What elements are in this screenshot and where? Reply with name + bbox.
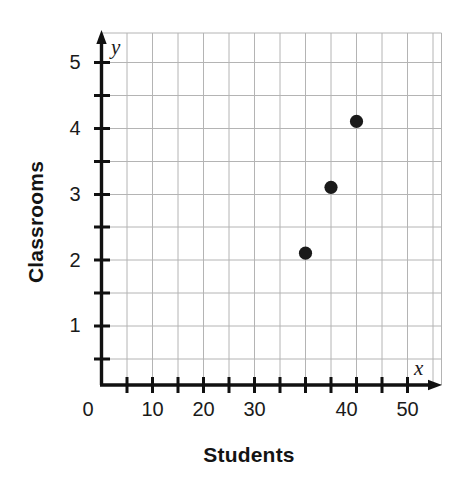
y-tick-label: 2: [62, 249, 88, 272]
y-tick-label: 3: [62, 183, 88, 206]
x-tick-label: 20: [181, 398, 226, 421]
x-axis-title: Students: [0, 443, 460, 467]
x-tick-label: 30: [232, 398, 277, 421]
x-axis: [100, 377, 442, 393]
data-point: [324, 181, 337, 194]
origin-label: 0: [75, 398, 101, 421]
y-axis: [94, 30, 110, 385]
y-tick-label: 4: [62, 117, 88, 140]
x-tick-label: 10: [130, 398, 175, 421]
x-axis-arrowhead: [428, 380, 442, 390]
y-tick-label: 5: [62, 51, 88, 74]
x-tick-label: 40: [324, 398, 369, 421]
data-point: [350, 115, 363, 128]
x-axis-variable-label: x: [414, 356, 423, 381]
y-axis-arrowhead: [96, 30, 106, 44]
x-tick-label: 50: [385, 398, 430, 421]
y-axis-title: Classrooms: [24, 122, 48, 322]
y-tick-label: 1: [62, 314, 88, 337]
grid-lines: [102, 33, 442, 385]
y-axis-variable-label: y: [111, 35, 120, 60]
data-point: [299, 247, 312, 260]
scatter-plot-figure: 5 4 3 2 1 0 10 20 30 40 50 y x Students …: [0, 0, 460, 483]
